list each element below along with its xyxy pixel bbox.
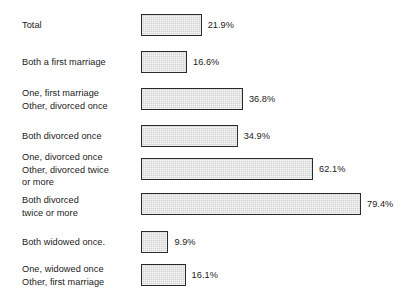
bar (141, 158, 313, 180)
bar-value-label: 16.1% (192, 264, 218, 286)
bar-category-label: Total (22, 19, 42, 32)
bar (141, 125, 238, 147)
bar-value-label: 16.6% (193, 51, 219, 73)
bar (141, 264, 186, 286)
bar-category-label: Both widowed once. (22, 236, 105, 249)
bar (141, 193, 361, 215)
bar (141, 14, 202, 36)
bar (141, 231, 168, 253)
bar-category-label: One, first marriage Other, divorced once (22, 87, 108, 112)
bar (141, 51, 187, 73)
bar-category-label: Both divorced twice or more (22, 194, 79, 219)
bar-value-label: 21.9% (208, 14, 234, 36)
bar-value-label: 9.9% (174, 231, 195, 253)
bar-category-label: Both a first marriage (22, 56, 106, 69)
bar-category-label: One, divorced once Other, divorced twice… (22, 151, 109, 189)
bar-category-label: Both divorced once (22, 130, 102, 143)
horizontal-bar-chart: Total21.9%Both a first marriage16.6%One,… (0, 0, 418, 298)
bar-value-label: 36.8% (249, 88, 275, 110)
bar-value-label: 62.1% (319, 158, 345, 180)
bar-value-label: 34.9% (244, 125, 270, 147)
bar-category-label: One, widowed once Other, first marriage (22, 263, 104, 288)
bar-value-label: 79.4% (367, 193, 393, 215)
bar (141, 88, 243, 110)
